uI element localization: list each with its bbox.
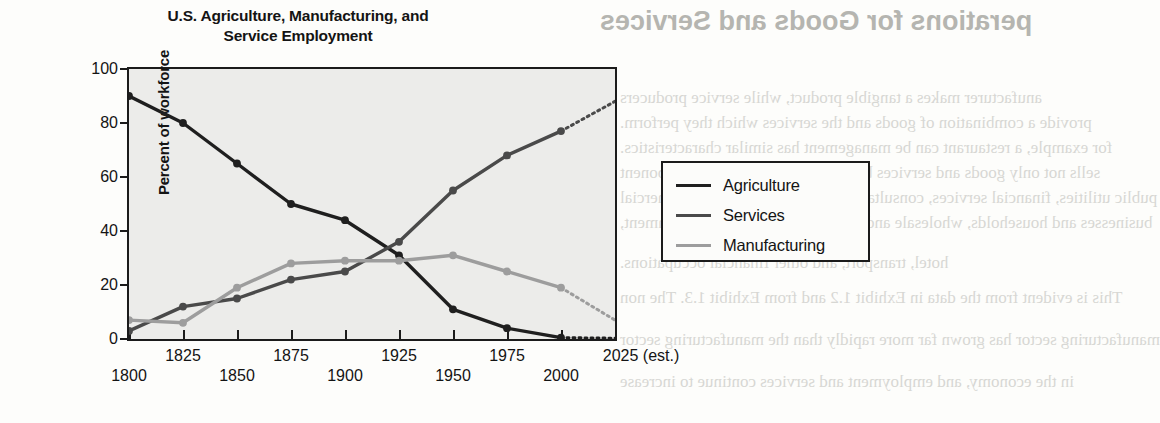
data-point-marker xyxy=(129,316,133,324)
y-tick-mark xyxy=(120,176,129,178)
legend-label: Manufacturing xyxy=(723,236,825,255)
series-line-solid xyxy=(129,255,561,322)
data-point-marker xyxy=(449,187,457,195)
series-lines xyxy=(129,69,615,339)
data-point-marker xyxy=(179,119,187,127)
data-point-marker xyxy=(503,324,511,332)
data-point-marker xyxy=(557,284,565,292)
data-point-marker xyxy=(287,260,295,268)
series-line-estimated xyxy=(561,288,615,320)
series-line-estimated xyxy=(561,338,615,339)
legend-item[interactable]: Services xyxy=(663,200,868,230)
data-point-marker xyxy=(503,268,511,276)
data-point-marker xyxy=(557,334,565,339)
chart-title-line-2: Service Employment xyxy=(88,26,508,46)
chart-title-line-1: U.S. Agriculture, Manufacturing, and xyxy=(88,6,508,26)
y-tick-label: 60 xyxy=(100,168,118,186)
x-tick-label: 1925 xyxy=(381,347,417,365)
legend-label: Agriculture xyxy=(723,176,800,195)
y-tick-mark xyxy=(120,338,129,340)
data-point-marker xyxy=(395,257,403,265)
data-point-marker xyxy=(179,303,187,311)
x-tick-label: 1875 xyxy=(273,347,309,365)
data-point-marker xyxy=(449,251,457,259)
data-point-marker xyxy=(287,200,295,208)
data-point-marker xyxy=(341,268,349,276)
data-point-marker xyxy=(557,127,565,135)
y-tick-label: 20 xyxy=(100,276,118,294)
x-tick-mark xyxy=(615,330,617,339)
y-tick-label: 100 xyxy=(91,60,118,78)
legend-item[interactable]: Manufacturing xyxy=(663,230,868,260)
data-point-marker xyxy=(233,160,241,168)
y-tick-label: 80 xyxy=(100,114,118,132)
data-point-marker xyxy=(503,152,511,160)
y-tick-mark xyxy=(120,230,129,232)
plot-area: Percent of workforce 020406080100 xyxy=(127,67,617,341)
y-tick-mark xyxy=(120,68,129,70)
y-tick-mark xyxy=(120,122,129,124)
legend-line-swatch xyxy=(676,244,711,247)
x-tick-label: 1900 xyxy=(327,367,363,385)
x-tick-label: 1975 xyxy=(489,347,525,365)
data-point-marker xyxy=(449,305,457,313)
legend-line-swatch xyxy=(676,214,711,217)
chart-title: U.S. Agriculture, Manufacturing, and Ser… xyxy=(88,6,508,46)
x-tick-label: 1825 xyxy=(165,347,201,365)
data-point-marker xyxy=(179,319,187,327)
series-manufacturing xyxy=(129,251,615,326)
chart-legend: AgricultureServicesManufacturing xyxy=(661,161,870,262)
data-point-marker xyxy=(341,216,349,224)
x-tick-label: 2025 (est.) xyxy=(603,347,679,365)
data-point-marker xyxy=(341,257,349,265)
data-point-marker xyxy=(233,284,241,292)
data-point-marker xyxy=(395,238,403,246)
series-line-solid xyxy=(129,131,561,331)
legend-line-swatch xyxy=(676,184,711,187)
y-tick-label: 0 xyxy=(109,330,118,348)
legend-label: Services xyxy=(723,206,785,225)
y-tick-mark xyxy=(120,284,129,286)
series-agriculture xyxy=(129,92,615,339)
x-tick-label: 2000 xyxy=(543,367,579,385)
x-tick-label: 1800 xyxy=(111,367,147,385)
x-tick-label: 1950 xyxy=(435,367,471,385)
legend-item[interactable]: Agriculture xyxy=(663,170,868,200)
data-point-marker xyxy=(233,295,241,303)
series-line-estimated xyxy=(561,101,615,131)
x-tick-label: 1850 xyxy=(219,367,255,385)
data-point-marker xyxy=(287,276,295,284)
y-tick-label: 40 xyxy=(100,222,118,240)
